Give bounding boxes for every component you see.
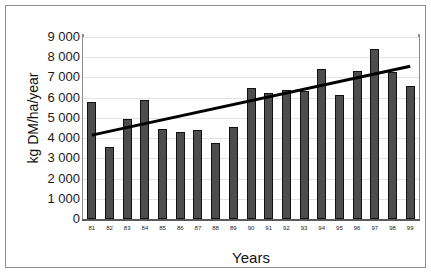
trendline [83, 37, 419, 219]
x-tick-label: 88 [207, 224, 225, 232]
x-tick-label: 84 [136, 224, 154, 232]
x-tick-label: 83 [118, 224, 136, 232]
y-axis-title: kg DM/ha/year [25, 53, 41, 183]
x-tick-label: 91 [260, 224, 278, 232]
chart-figure: 01 0002 0003 0004 0005 0006 0007 0008 00… [0, 0, 431, 274]
y-tick-label: 5 000 [14, 111, 80, 124]
x-tick-label: 99 [401, 224, 419, 232]
y-tick-label: 6 000 [14, 91, 80, 104]
x-tick-label: 82 [101, 224, 119, 232]
y-tick-label: 4 000 [14, 131, 80, 144]
y-tick-label: 9 000 [14, 30, 80, 43]
x-tick-label: 94 [313, 224, 331, 232]
x-tick-label: 96 [348, 224, 366, 232]
x-tick-label: 95 [330, 224, 348, 232]
trendline-segment [92, 66, 410, 135]
y-tick-label: 0 [14, 212, 80, 225]
x-tick-label: 93 [295, 224, 313, 232]
chart-frame: 01 0002 0003 0004 0005 0006 0007 0008 00… [5, 5, 426, 268]
x-tick-label: 97 [366, 224, 384, 232]
x-tick-label: 89 [224, 224, 242, 232]
y-tick-label: 7 000 [14, 70, 80, 83]
y-tick-label: 1 000 [14, 192, 80, 205]
x-tick-label: 98 [384, 224, 402, 232]
x-tick-label: 92 [277, 224, 295, 232]
y-axis-tick-labels: 01 0002 0003 0004 0005 0006 0007 0008 00… [14, 6, 80, 274]
x-axis-title: Years [83, 249, 419, 266]
x-tick-label: 90 [242, 224, 260, 232]
x-axis-tick-labels: 81828384858687888990919293949596979899 [83, 224, 419, 238]
x-tick-label: 81 [83, 224, 101, 232]
x-axis-line [82, 219, 420, 221]
y-tick-label: 3 000 [14, 151, 80, 164]
x-tick-label: 85 [154, 224, 172, 232]
x-tick-label: 87 [189, 224, 207, 232]
y-tick-label: 2 000 [14, 172, 80, 185]
y-tick-label: 8 000 [14, 50, 80, 63]
x-tick-label: 86 [171, 224, 189, 232]
